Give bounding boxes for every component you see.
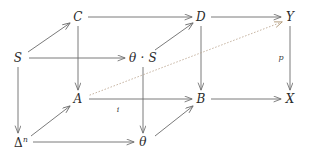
node-C: C — [73, 11, 82, 23]
node-delta-n: Δn — [14, 136, 28, 149]
edge-S-C — [28, 23, 70, 52]
delta-superscript: n — [23, 135, 28, 144]
node-D: D — [196, 11, 206, 23]
commutative-diagram: C D Y S θ · S A B X Δn θ i p — [0, 0, 313, 160]
edge-Deltan-A — [31, 106, 70, 136]
delta-glyph: Δ — [14, 136, 23, 150]
edge-A-Y-dotted — [90, 22, 282, 95]
node-theta-dot-S: θ · S — [129, 52, 157, 64]
edge-theta-B — [155, 106, 193, 136]
node-theta: θ — [139, 136, 146, 148]
node-X: X — [286, 93, 295, 105]
diagram-arrows-layer — [0, 0, 313, 160]
edge-thetaS-D — [155, 23, 193, 50]
node-A: A — [74, 93, 83, 105]
edge-label-p: p — [278, 54, 283, 62]
node-B: B — [196, 93, 205, 105]
node-S: S — [14, 52, 22, 64]
edge-label-i: i — [117, 106, 120, 114]
node-Y: Y — [286, 11, 294, 23]
